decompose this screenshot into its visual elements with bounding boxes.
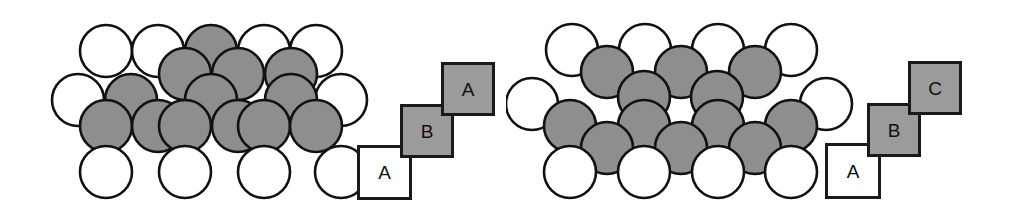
sphere-layer-a [290,100,342,152]
sphere-layer-a [80,25,132,77]
sphere-layer-a [238,100,290,152]
sphere-layer-a [238,146,290,198]
legend-square-label: C [928,79,942,98]
sphere-layer-a [692,146,744,198]
hcp-sphere-packing-diagram [0,0,506,204]
sphere-layer-a [80,100,132,152]
sphere-layer-a [80,146,132,198]
sphere-layer-a [159,146,211,198]
fcc-abc-stacking-panel: ABC [506,0,1013,204]
legend-square-a: A [441,62,495,116]
sphere-layer-a [544,146,596,198]
sphere-layer-a [765,146,817,198]
legend-square-label: A [847,162,860,181]
close-packed-stacking-figure: ABA ABC [0,0,1013,204]
hcp-aba-stacking-panel: ABA [0,0,506,204]
legend-square-label: A [378,163,391,182]
legend-square-c: C [908,61,962,115]
legend-square-label: B [888,121,901,140]
legend-square-label: B [421,122,434,141]
legend-square-label: A [462,80,475,99]
sphere-layer-a [159,100,211,152]
sphere-layer-a [618,146,670,198]
